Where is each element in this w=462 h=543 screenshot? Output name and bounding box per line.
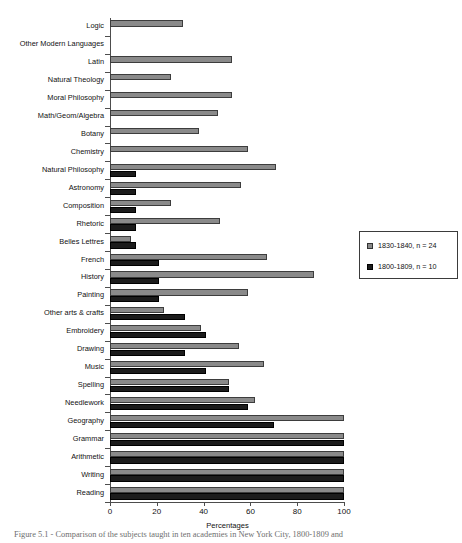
category-label: Painting bbox=[0, 291, 104, 299]
category-label: Botany bbox=[0, 130, 104, 138]
legend-item-1800-1809: 1800-1809, n = 10 bbox=[367, 262, 437, 271]
bar-series1 bbox=[110, 469, 344, 475]
y-axis-tick bbox=[105, 287, 110, 288]
category-label: Moral Philosophy bbox=[0, 94, 104, 102]
bar-series1 bbox=[110, 164, 276, 170]
y-axis-tick bbox=[105, 377, 110, 378]
legend-swatch-icon bbox=[367, 243, 373, 249]
y-axis-tick bbox=[105, 161, 110, 162]
bar-series1 bbox=[110, 415, 344, 421]
bar-series1 bbox=[110, 361, 264, 367]
y-axis-tick bbox=[105, 108, 110, 109]
bar-series2 bbox=[110, 404, 248, 410]
y-axis-tick bbox=[105, 251, 110, 252]
bar-series1 bbox=[110, 271, 314, 277]
legend-item-1830-1840: 1830-1840, n = 24 bbox=[367, 241, 437, 250]
category-label: Natural Philosophy bbox=[0, 166, 104, 174]
bar-series1 bbox=[110, 487, 344, 493]
category-label: Belles Lettres bbox=[0, 238, 104, 246]
bar-series1 bbox=[110, 146, 248, 152]
bar-series2 bbox=[110, 278, 159, 284]
x-axis-tick bbox=[110, 502, 111, 506]
x-axis-tick-label: 40 bbox=[189, 507, 219, 516]
bar-series1 bbox=[110, 379, 229, 385]
x-axis-tick-label: 20 bbox=[142, 507, 172, 516]
figure-caption-clipped: Figure 5.1 - Comparison of the subjects … bbox=[0, 531, 462, 543]
x-axis-tick bbox=[344, 502, 345, 506]
bar-series1 bbox=[110, 451, 344, 457]
bar-series1 bbox=[110, 325, 201, 331]
y-axis-tick bbox=[105, 341, 110, 342]
category-label: Needlework bbox=[0, 399, 104, 407]
category-label: Drawing bbox=[0, 345, 104, 353]
y-axis-tick bbox=[105, 179, 110, 180]
bar-series2 bbox=[110, 457, 344, 463]
bar-series1 bbox=[110, 128, 199, 134]
category-label: Logic bbox=[0, 22, 104, 30]
y-axis-tick bbox=[105, 430, 110, 431]
y-axis-tick bbox=[105, 90, 110, 91]
y-axis-tick bbox=[105, 72, 110, 73]
bar-series1 bbox=[110, 236, 131, 242]
bar-series2 bbox=[110, 189, 136, 195]
category-label: Arithmetic bbox=[0, 453, 104, 461]
x-axis-title: Percentages bbox=[110, 521, 345, 530]
bar-series1 bbox=[110, 289, 248, 295]
bar-series1 bbox=[110, 182, 241, 188]
bar-series2 bbox=[110, 242, 136, 248]
y-axis-tick bbox=[105, 36, 110, 37]
bar-series1 bbox=[110, 92, 232, 98]
category-label: Spelling bbox=[0, 381, 104, 389]
bar-series2 bbox=[110, 422, 274, 428]
bar-series1 bbox=[110, 56, 232, 62]
category-label: Reading bbox=[0, 489, 104, 497]
legend-label: 1830-1840, n = 24 bbox=[378, 241, 437, 250]
bar-series2 bbox=[110, 475, 344, 481]
x-axis-tick bbox=[250, 502, 251, 506]
legend-label: 1800-1809, n = 10 bbox=[378, 262, 437, 271]
category-label: Other arts & crafts bbox=[0, 309, 104, 317]
x-axis-tick-label: 100 bbox=[329, 507, 359, 516]
category-label: Grammar bbox=[0, 435, 104, 443]
bar-series1 bbox=[110, 307, 164, 313]
x-axis-tick bbox=[297, 502, 298, 506]
horizontal-bar-chart: LogicOther Modern LanguagesLatinNatural … bbox=[0, 0, 462, 543]
bar-series2 bbox=[110, 350, 185, 356]
x-axis-tick bbox=[157, 502, 158, 506]
category-label: Natural Theology bbox=[0, 76, 104, 84]
bar-series1 bbox=[110, 74, 171, 80]
y-axis-tick bbox=[105, 233, 110, 234]
category-label: Chemistry bbox=[0, 148, 104, 156]
x-axis-tick-label: 60 bbox=[235, 507, 265, 516]
category-label: Latin bbox=[0, 58, 104, 66]
y-axis-tick bbox=[105, 466, 110, 467]
category-label: Embroidery bbox=[0, 327, 104, 335]
bar-series2 bbox=[110, 493, 344, 499]
y-axis-tick bbox=[105, 197, 110, 198]
x-axis-tick-label: 80 bbox=[282, 507, 312, 516]
y-axis-tick bbox=[105, 215, 110, 216]
y-axis-tick bbox=[105, 269, 110, 270]
category-label: Other Modern Languages bbox=[0, 40, 104, 48]
figure-caption-text: Figure 5.1 - Comparison of the subjects … bbox=[14, 531, 343, 539]
category-label: History bbox=[0, 273, 104, 281]
category-label: Music bbox=[0, 363, 104, 371]
y-axis-tick bbox=[105, 484, 110, 485]
x-axis-line bbox=[110, 502, 345, 503]
bar-series1 bbox=[110, 343, 239, 349]
bar-series2 bbox=[110, 171, 136, 177]
bar-series1 bbox=[110, 218, 220, 224]
y-axis-tick bbox=[105, 359, 110, 360]
category-label: Composition bbox=[0, 202, 104, 210]
x-axis-tick bbox=[204, 502, 205, 506]
bar-series1 bbox=[110, 433, 344, 439]
y-axis-tick bbox=[105, 126, 110, 127]
x-axis-tick-label: 0 bbox=[95, 507, 125, 516]
bar-series1 bbox=[110, 397, 255, 403]
bar-series1 bbox=[110, 254, 267, 260]
category-label: Rhetoric bbox=[0, 220, 104, 228]
legend-swatch-icon bbox=[367, 264, 373, 270]
y-axis-tick bbox=[105, 143, 110, 144]
bar-series2 bbox=[110, 260, 159, 266]
bar-series1 bbox=[110, 200, 171, 206]
